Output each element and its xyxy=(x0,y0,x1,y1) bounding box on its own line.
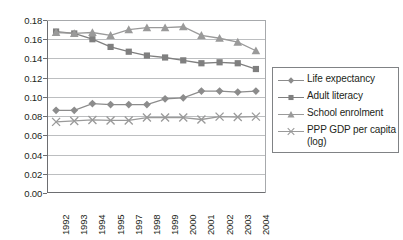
data-point xyxy=(161,95,169,103)
legend-item[interactable]: Life expectancy xyxy=(273,73,398,90)
data-point xyxy=(198,60,204,66)
y-tick-label: 0.18 xyxy=(24,15,42,26)
series-line xyxy=(56,27,256,51)
data-point xyxy=(107,101,115,109)
legend-item[interactable]: PPP GDP per capita (log) xyxy=(273,124,398,154)
legend-marker-diamond-icon xyxy=(278,74,304,88)
legend-marker-square-icon xyxy=(278,91,304,105)
data-point xyxy=(253,66,259,72)
series-2 xyxy=(53,28,259,72)
data-point xyxy=(52,106,60,114)
data-point xyxy=(235,60,241,66)
data-point xyxy=(180,57,186,63)
y-tick-label: 0.00 xyxy=(24,188,42,199)
series-line xyxy=(56,117,256,122)
chart-legend: Life expectancyAdult literacySchool enro… xyxy=(272,67,399,153)
legend-label: Life expectancy xyxy=(304,73,375,85)
x-tick-label: 1993 xyxy=(78,215,89,235)
y-tick-mark xyxy=(43,193,47,194)
data-point xyxy=(70,106,78,114)
legend-marker-triangle-icon xyxy=(278,108,304,122)
x-tick-label: 1999 xyxy=(169,215,180,235)
y-tick-label: 0.16 xyxy=(24,34,42,45)
data-point xyxy=(89,36,95,42)
x-tick-label: 1997 xyxy=(133,215,144,235)
x-tick-label: 2002 xyxy=(224,215,235,235)
y-tick-label: 0.06 xyxy=(24,130,42,141)
legend-marker-x-icon xyxy=(278,125,304,139)
x-tick-label: 2001 xyxy=(205,215,216,235)
x-tick-label: 1994 xyxy=(96,215,107,235)
x-tick-label: 2000 xyxy=(187,215,198,235)
y-tick-label: 0.02 xyxy=(24,168,42,179)
x-tick-label: 1998 xyxy=(151,215,162,235)
data-point xyxy=(216,87,224,95)
y-tick-label: 0.08 xyxy=(24,111,42,122)
series-line xyxy=(56,32,256,69)
y-tick-label: 0.12 xyxy=(24,72,42,83)
y-tick-label: 0.14 xyxy=(24,53,42,64)
series-4 xyxy=(52,113,260,126)
x-axis: 1992199319941995199719981999200020012002… xyxy=(47,195,265,240)
data-point xyxy=(125,101,133,109)
x-tick-label: 2004 xyxy=(260,215,271,235)
data-point xyxy=(234,88,242,96)
legend-label: School enrolment xyxy=(304,107,383,119)
data-point xyxy=(252,46,261,54)
y-axis: 0.180.160.140.120.100.080.060.040.020.00 xyxy=(0,0,45,240)
legend-label: Adult literacy xyxy=(304,90,363,102)
data-point xyxy=(179,94,187,102)
y-tick-label: 0.04 xyxy=(24,149,42,160)
legend-item[interactable]: School enrolment xyxy=(273,107,398,124)
legend-label: PPP GDP per capita (log) xyxy=(304,124,396,148)
data-point xyxy=(197,31,206,39)
data-point xyxy=(162,54,168,60)
x-tick-label: 1992 xyxy=(60,215,71,235)
plot-right-border xyxy=(265,20,266,193)
data-point xyxy=(89,100,97,108)
series-1 xyxy=(52,87,260,114)
data-point xyxy=(144,52,150,58)
data-point xyxy=(126,49,132,55)
series-line xyxy=(56,91,256,110)
data-point xyxy=(143,101,151,109)
legend-item[interactable]: Adult literacy xyxy=(273,90,398,107)
chart-root: 0.180.160.140.120.100.080.060.040.020.00… xyxy=(0,0,403,240)
x-tick-label: 2003 xyxy=(242,215,253,235)
data-point xyxy=(107,44,113,50)
y-tick-label: 0.10 xyxy=(24,91,42,102)
series-3 xyxy=(52,22,260,54)
data-point xyxy=(252,87,260,95)
data-point xyxy=(198,87,206,95)
data-point xyxy=(216,59,222,65)
data-series-layer xyxy=(47,20,265,193)
x-tick-label: 1995 xyxy=(115,215,126,235)
line-chart: 0.180.160.140.120.100.080.060.040.020.00… xyxy=(0,0,403,240)
